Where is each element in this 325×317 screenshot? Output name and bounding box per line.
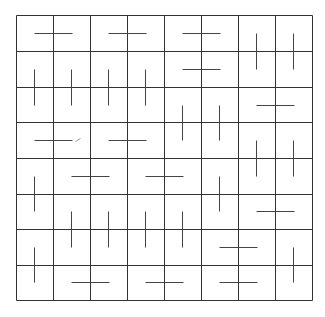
grid-lines bbox=[17, 16, 313, 301]
diagonal-tick-mark bbox=[76, 139, 81, 142]
marks bbox=[76, 139, 81, 142]
segment-grid-diagram bbox=[0, 0, 325, 317]
